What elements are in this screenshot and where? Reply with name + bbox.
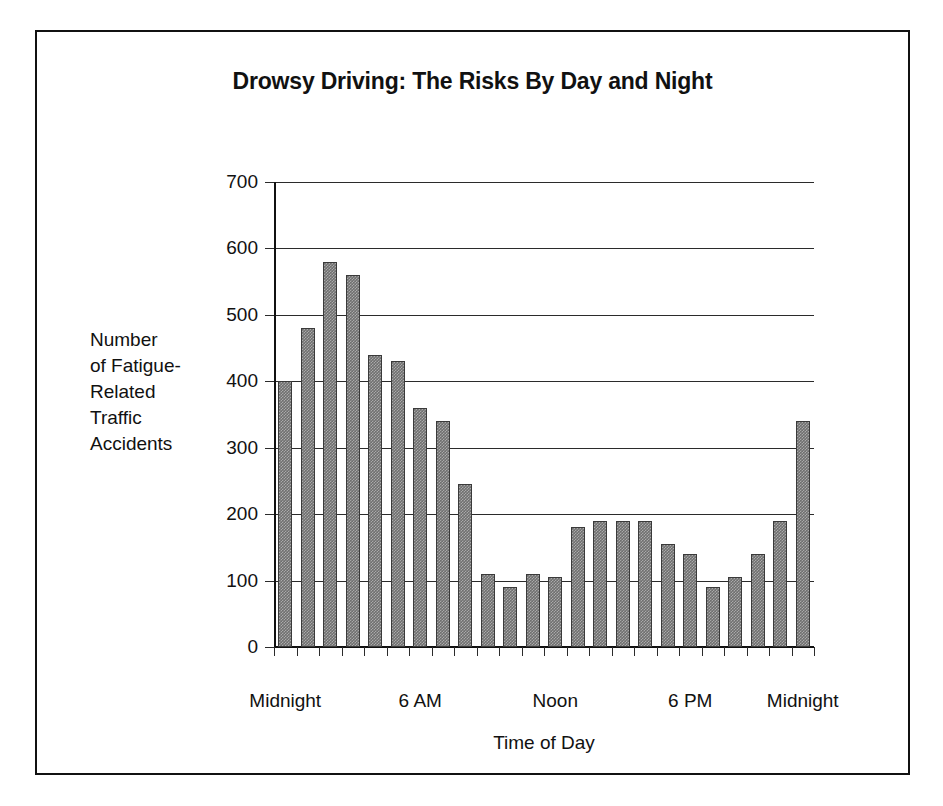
bar (526, 574, 540, 647)
y-tick-label-600: 600 (226, 237, 258, 259)
bar (301, 328, 315, 647)
y-axis-title-line-2: of Fatigue- (90, 353, 240, 379)
x-tick (364, 647, 365, 656)
x-tick (409, 647, 410, 656)
x-axis-label: Midnight (767, 690, 839, 712)
bar (661, 544, 675, 647)
bar (751, 554, 765, 647)
bar (368, 355, 382, 647)
x-tick (657, 647, 658, 656)
x-tick (274, 647, 275, 656)
x-tick (432, 647, 433, 656)
x-axis-label: 6 AM (399, 690, 442, 712)
bar (481, 574, 495, 647)
bar (278, 381, 292, 647)
plot-area: 0100200300400500600700 (274, 182, 814, 647)
x-tick (567, 647, 568, 656)
bar (458, 484, 472, 647)
bar (728, 577, 742, 647)
x-tick (792, 647, 793, 656)
bar (391, 361, 405, 647)
y-tick-label-300: 300 (226, 437, 258, 459)
bar (706, 587, 720, 647)
x-tick (522, 647, 523, 656)
y-axis-line (274, 182, 276, 647)
y-tick-label-200: 200 (226, 503, 258, 525)
x-tick (702, 647, 703, 656)
x-tick (297, 647, 298, 656)
y-tick-label-700: 700 (226, 171, 258, 193)
x-tick (769, 647, 770, 656)
bar (346, 275, 360, 647)
x-axis-label: Noon (533, 690, 578, 712)
bar (571, 527, 585, 647)
bar (548, 577, 562, 647)
y-axis-title-line-4: Traffic (90, 405, 240, 431)
y-tick-label-500: 500 (226, 304, 258, 326)
x-tick (477, 647, 478, 656)
x-tick (342, 647, 343, 656)
bar (683, 554, 697, 647)
y-tick-400 (265, 381, 274, 382)
y-tick-700 (265, 182, 274, 183)
y-tick-label-0: 0 (247, 636, 258, 658)
bar (323, 262, 337, 647)
x-tick (319, 647, 320, 656)
y-axis-title: Number of Fatigue- Related Traffic Accid… (90, 327, 240, 457)
y-tick-200 (265, 514, 274, 515)
x-tick (589, 647, 590, 656)
bar (413, 408, 427, 647)
y-tick-300 (265, 448, 274, 449)
y-tick-100 (265, 581, 274, 582)
bar (503, 587, 517, 647)
x-tick (679, 647, 680, 656)
gridline-600 (274, 248, 814, 249)
bar (638, 521, 652, 647)
x-tick (747, 647, 748, 656)
x-axis-label: Midnight (249, 690, 321, 712)
bar (773, 521, 787, 647)
y-tick-label-400: 400 (226, 370, 258, 392)
x-tick (387, 647, 388, 656)
figure-frame: Drowsy Driving: The Risks By Day and Nig… (35, 30, 910, 775)
x-tick (499, 647, 500, 656)
y-tick-600 (265, 248, 274, 249)
y-tick-0 (265, 647, 274, 648)
gridline-700 (274, 182, 814, 183)
x-tick (724, 647, 725, 656)
x-tick (454, 647, 455, 656)
y-tick-500 (265, 315, 274, 316)
chart-title: Drowsy Driving: The Risks By Day and Nig… (37, 68, 908, 95)
x-axis-title: Time of Day (274, 732, 814, 754)
y-axis-title-line-3: Related (90, 379, 240, 405)
x-tick (814, 647, 815, 656)
y-axis-title-line-1: Number (90, 327, 240, 353)
x-tick (634, 647, 635, 656)
x-tick (544, 647, 545, 656)
y-axis-title-line-5: Accidents (90, 431, 240, 457)
x-tick (612, 647, 613, 656)
bar (796, 421, 810, 647)
bar (593, 521, 607, 647)
x-axis-label: 6 PM (668, 690, 712, 712)
bar (616, 521, 630, 647)
bar (436, 421, 450, 647)
y-tick-label-100: 100 (226, 570, 258, 592)
